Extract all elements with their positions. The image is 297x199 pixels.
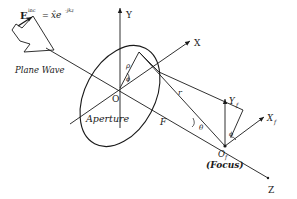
phi-focal-label: ϕ <box>229 130 233 138</box>
phi-label: ϕ <box>126 75 130 83</box>
origin-label: O <box>112 94 119 104</box>
focal-point-dot <box>223 144 226 147</box>
y-focal-label: Y <box>229 96 236 106</box>
z-axis-end-dot <box>267 177 269 179</box>
field-superscript: inc <box>28 7 36 13</box>
plane-wave-arrow-icon <box>12 16 54 52</box>
z-axis-label: Z <box>268 185 274 195</box>
x-focal-sub: f <box>273 119 277 126</box>
focused-aperture-diagram: E inc = x̂e -jkz Plane Wave Aperture Y X… <box>0 0 297 199</box>
field-rhs: x̂e <box>51 10 61 20</box>
r-line <box>139 52 225 146</box>
plane-wave-label: Plane Wave <box>14 65 65 75</box>
field-equals: = <box>42 11 49 20</box>
r-label: r <box>178 88 183 97</box>
y-axis-label: Y <box>125 10 133 20</box>
z-axis <box>46 48 268 178</box>
field-symbol: E <box>20 10 28 21</box>
x-axis-label: X <box>194 38 201 48</box>
rho-segment <box>120 52 159 88</box>
aperture-label: Aperture <box>85 113 130 124</box>
x-focal-label: X <box>266 113 274 123</box>
F-label: F <box>159 117 167 127</box>
rho-label: ρ <box>125 62 131 70</box>
theta-label: θ <box>199 124 204 132</box>
focus-label: (Focus) <box>206 160 244 170</box>
theta-arc <box>192 118 194 127</box>
focal-origin-label: O <box>218 149 225 159</box>
field-exponent: -jkz <box>65 7 74 14</box>
